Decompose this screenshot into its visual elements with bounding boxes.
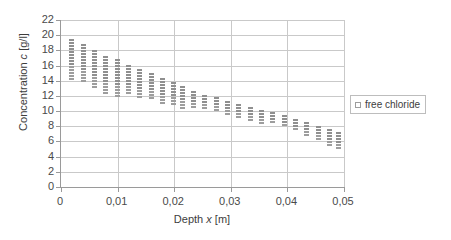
data-point-marker: [191, 103, 196, 105]
data-point-marker: [160, 90, 165, 92]
x-axis-tick-label: 0: [35, 196, 85, 207]
data-point-stack: [293, 119, 300, 132]
data-point-marker: [327, 138, 332, 140]
data-point-marker: [92, 68, 97, 70]
y-axis-title-prefix: Concentration: [17, 59, 29, 131]
chart-legend: free chloride: [350, 95, 426, 114]
data-point-stack: [236, 104, 243, 119]
data-point-marker: [103, 83, 108, 85]
data-point-marker: [336, 144, 341, 146]
data-point-marker: [103, 62, 108, 64]
data-point-stack: [225, 101, 232, 115]
data-point-marker: [171, 103, 176, 105]
data-point-marker: [171, 85, 176, 87]
data-point-marker: [103, 74, 108, 76]
data-point-marker: [126, 86, 131, 88]
data-point-stack: [69, 39, 76, 82]
data-point-stack: [126, 65, 133, 95]
data-point-marker: [126, 74, 131, 76]
data-point-marker: [69, 60, 74, 62]
data-point-marker: [115, 65, 120, 67]
data-point-marker: [103, 56, 108, 58]
data-point-marker: [214, 103, 219, 105]
y-axis-tick: [56, 111, 61, 112]
data-point-marker: [304, 134, 309, 136]
x-axis-tick: [231, 187, 232, 192]
x-axis-tick: [61, 187, 62, 192]
data-point-marker: [103, 68, 108, 70]
data-point-marker: [259, 113, 264, 115]
data-point-marker: [160, 102, 165, 104]
data-point-marker: [316, 138, 321, 140]
legend-label-free-chloride: free chloride: [365, 99, 420, 110]
data-point-marker: [81, 71, 86, 73]
y-axis-tick-label: 0: [8, 181, 54, 192]
data-point-marker: [115, 62, 120, 64]
data-point-marker: [92, 77, 97, 79]
data-point-stack: [137, 69, 144, 99]
data-point-marker: [149, 88, 154, 90]
data-point-marker: [137, 84, 142, 86]
data-point-marker: [180, 86, 185, 88]
data-point-stack: [160, 78, 167, 104]
data-point-marker: [69, 78, 74, 80]
data-point-marker: [149, 85, 154, 87]
data-point-marker: [336, 147, 341, 149]
data-point-marker: [115, 83, 120, 85]
data-point-marker: [248, 107, 253, 109]
data-point-marker: [171, 82, 176, 84]
data-point-marker: [103, 71, 108, 73]
data-point-marker: [126, 92, 131, 94]
data-point-stack: [171, 82, 178, 107]
data-point-marker: [293, 119, 298, 121]
data-point-marker: [225, 113, 230, 115]
data-point-marker: [149, 94, 154, 96]
data-point-stack: [180, 86, 187, 109]
data-point-marker: [225, 104, 230, 106]
data-point-marker: [137, 96, 142, 98]
data-point-marker: [137, 69, 142, 71]
data-point-marker: [202, 107, 207, 109]
data-point-marker: [191, 91, 196, 93]
data-point-marker: [81, 74, 86, 76]
y-axis-tick-label: 10: [8, 105, 54, 116]
data-point-marker: [236, 113, 241, 115]
y-axis-tick-label: 8: [8, 120, 54, 131]
y-axis-tick-label: 6: [8, 135, 54, 146]
data-point-marker: [202, 101, 207, 103]
x-axis-tick: [174, 187, 175, 192]
data-point-marker: [81, 68, 86, 70]
y-axis-tick: [56, 141, 61, 142]
data-point-marker: [270, 118, 275, 120]
data-point-marker: [236, 107, 241, 109]
data-point-marker: [225, 101, 230, 103]
data-point-stack: [259, 110, 266, 124]
data-point-marker: [92, 53, 97, 55]
data-point-marker: [92, 65, 97, 67]
y-axis-title-variable: c: [17, 54, 29, 60]
data-point-marker: [92, 86, 97, 88]
data-point-stack: [191, 91, 198, 110]
data-point-stack: [92, 50, 99, 90]
data-point-marker: [180, 104, 185, 106]
data-point-marker: [103, 65, 108, 67]
data-point-marker: [137, 72, 142, 74]
data-point-marker: [214, 106, 219, 108]
data-point-marker: [316, 126, 321, 128]
data-point-marker: [69, 63, 74, 65]
data-point-marker: [336, 138, 341, 140]
x-axis-tick-label: 0,02: [148, 196, 198, 207]
data-point-marker: [160, 96, 165, 98]
data-point-marker: [103, 86, 108, 88]
data-point-marker: [126, 83, 131, 85]
data-point-marker: [69, 54, 74, 56]
data-point-marker: [293, 122, 298, 124]
data-point-marker: [248, 116, 253, 118]
data-point-marker: [304, 131, 309, 133]
y-axis-tick-label: 14: [8, 75, 54, 86]
data-point-marker: [126, 89, 131, 91]
data-point-marker: [81, 50, 86, 52]
data-point-marker: [81, 65, 86, 67]
data-point-marker: [202, 95, 207, 97]
data-point-marker: [248, 113, 253, 115]
